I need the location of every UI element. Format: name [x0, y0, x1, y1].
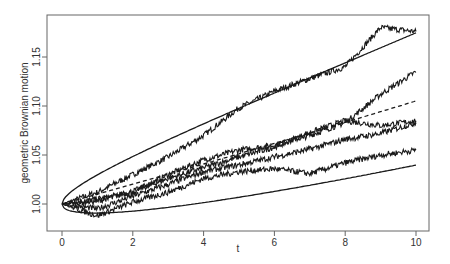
y-tick-label: 1.10: [31, 96, 42, 116]
line-path-3: [62, 118, 416, 205]
x-axis-title: t: [237, 243, 240, 254]
x-tick-label: 8: [342, 237, 348, 248]
y-tick-label: 1.15: [31, 47, 42, 67]
series-group: [62, 26, 416, 218]
y-tick-label: 1.05: [31, 145, 42, 165]
y-axis: 1.001.051.101.15: [31, 47, 47, 214]
line-upper-envelope: [62, 33, 416, 204]
line-path-1: [62, 26, 416, 205]
x-tick-label: 4: [201, 237, 207, 248]
x-tick-label: 0: [59, 237, 65, 248]
line-path-2: [62, 71, 416, 204]
x-tick-label: 10: [410, 237, 422, 248]
x-tick-label: 2: [130, 237, 136, 248]
chart: 0246810 1.001.051.101.15 t geometric Bro…: [0, 0, 450, 264]
line-mean: [62, 101, 416, 204]
x-axis: 0246810: [59, 231, 422, 248]
y-tick-label: 1.00: [31, 194, 42, 214]
x-tick-label: 6: [272, 237, 278, 248]
y-axis-title: geometric Brownian motion: [19, 62, 30, 183]
